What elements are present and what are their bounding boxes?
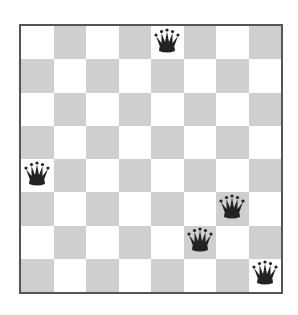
- board-square[interactable]: [151, 93, 184, 126]
- board-square[interactable]: [249, 259, 282, 292]
- board-square[interactable]: [86, 93, 119, 126]
- board-square[interactable]: [151, 59, 184, 92]
- board-square[interactable]: [119, 226, 152, 259]
- board-square[interactable]: [54, 259, 87, 292]
- board-square[interactable]: [249, 59, 282, 92]
- board-square[interactable]: [86, 159, 119, 192]
- board-square[interactable]: [184, 192, 217, 225]
- queen-icon: [251, 260, 279, 290]
- board-square[interactable]: [151, 126, 184, 159]
- board-square[interactable]: [21, 192, 54, 225]
- queen-icon: [23, 161, 51, 191]
- board-square[interactable]: [119, 93, 152, 126]
- board-square[interactable]: [119, 126, 152, 159]
- board-square[interactable]: [184, 93, 217, 126]
- board-square[interactable]: [216, 126, 249, 159]
- board-square[interactable]: [54, 93, 87, 126]
- board-square[interactable]: [184, 159, 217, 192]
- board-square[interactable]: [151, 26, 184, 59]
- queen-icon: [186, 227, 214, 257]
- board-square[interactable]: [54, 26, 87, 59]
- board-square[interactable]: [54, 159, 87, 192]
- board-square[interactable]: [119, 26, 152, 59]
- board-square[interactable]: [216, 259, 249, 292]
- board-square[interactable]: [54, 126, 87, 159]
- board-square[interactable]: [86, 126, 119, 159]
- board-square[interactable]: [119, 192, 152, 225]
- board-square[interactable]: [249, 192, 282, 225]
- board-square[interactable]: [86, 26, 119, 59]
- board-square[interactable]: [249, 93, 282, 126]
- board-square[interactable]: [184, 226, 217, 259]
- board-square[interactable]: [151, 259, 184, 292]
- board-square[interactable]: [184, 26, 217, 59]
- board-square[interactable]: [86, 226, 119, 259]
- board-square[interactable]: [216, 226, 249, 259]
- queen-icon: [153, 28, 181, 58]
- board-square[interactable]: [21, 93, 54, 126]
- queen-icon: [218, 194, 246, 224]
- board-square[interactable]: [216, 26, 249, 59]
- board-square[interactable]: [216, 159, 249, 192]
- board-square[interactable]: [216, 192, 249, 225]
- board-square[interactable]: [249, 159, 282, 192]
- board-square[interactable]: [184, 259, 217, 292]
- board-square[interactable]: [119, 259, 152, 292]
- board-square[interactable]: [249, 126, 282, 159]
- board-square[interactable]: [86, 192, 119, 225]
- board-square[interactable]: [21, 126, 54, 159]
- board-square[interactable]: [54, 226, 87, 259]
- board-square[interactable]: [151, 159, 184, 192]
- board-square[interactable]: [54, 192, 87, 225]
- board-square[interactable]: [216, 59, 249, 92]
- board-square[interactable]: [216, 93, 249, 126]
- board-square[interactable]: [86, 259, 119, 292]
- board-square[interactable]: [21, 226, 54, 259]
- board-square[interactable]: [86, 59, 119, 92]
- board-square[interactable]: [119, 159, 152, 192]
- board-square[interactable]: [249, 226, 282, 259]
- board-square[interactable]: [21, 59, 54, 92]
- board-square[interactable]: [184, 59, 217, 92]
- chess-board: [19, 24, 283, 294]
- board-square[interactable]: [151, 226, 184, 259]
- board-square[interactable]: [184, 126, 217, 159]
- board-square[interactable]: [119, 59, 152, 92]
- board-square[interactable]: [54, 59, 87, 92]
- board-square[interactable]: [21, 26, 54, 59]
- board-square[interactable]: [21, 259, 54, 292]
- board-square[interactable]: [151, 192, 184, 225]
- board-square[interactable]: [21, 159, 54, 192]
- board-square[interactable]: [249, 26, 282, 59]
